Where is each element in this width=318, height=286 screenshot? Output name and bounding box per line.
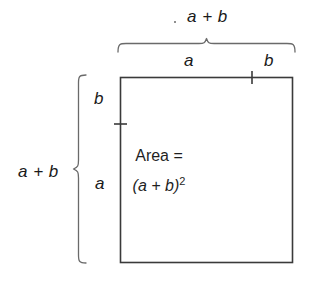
top-segment-a-label: a: [184, 52, 193, 69]
area-expression-base: (a + b): [133, 177, 180, 194]
area-expression-exponent: 2: [179, 175, 185, 187]
area-label: Area =: [0, 148, 318, 164]
geometry-figure: a + b a b a + b b a Area = (a + b)2: [0, 0, 318, 286]
left-brace: [74, 75, 87, 263]
stray-dot-mark: [174, 21, 176, 23]
left-segment-b-label: b: [94, 90, 103, 107]
square-outline: [121, 78, 293, 263]
top-total-length-label: a + b: [187, 8, 228, 25]
top-segment-b-label: b: [264, 52, 273, 69]
figure-canvas: [0, 0, 318, 286]
top-brace: [118, 39, 295, 53]
area-expression: (a + b)2: [0, 176, 318, 194]
